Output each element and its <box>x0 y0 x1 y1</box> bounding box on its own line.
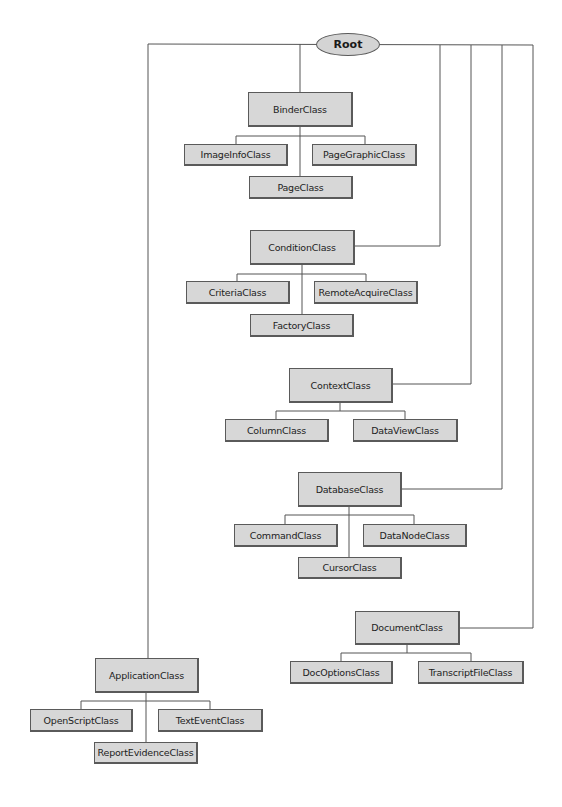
node-textevent-class: TextEventClass <box>158 709 263 732</box>
node-database-class: DatabaseClass <box>298 472 402 507</box>
node-condition-class: ConditionClass <box>250 230 355 265</box>
node-command-class: CommandClass <box>234 524 338 547</box>
node-openscript-class: OpenScriptClass <box>30 709 133 732</box>
node-datanode-class: DataNodeClass <box>363 524 467 547</box>
class-hierarchy-diagram: Root BinderClass ImageInfoClass PageGrap… <box>0 0 562 807</box>
node-page-class: PageClass <box>249 176 353 199</box>
node-binder-class: BinderClass <box>248 92 353 127</box>
node-transcriptfile-class: TranscriptFileClass <box>418 661 524 684</box>
node-remoteacquire-class: RemoteAcquireClass <box>314 281 418 304</box>
node-docoptions-class: DocOptionsClass <box>290 661 393 684</box>
node-application-class: ApplicationClass <box>95 658 199 693</box>
node-factory-class: FactoryClass <box>250 314 354 337</box>
node-dataview-class: DataViewClass <box>353 419 458 442</box>
root-node: Root <box>316 33 380 56</box>
node-imageinfo-class: ImageInfoClass <box>184 144 288 166</box>
node-reportevidence-class: ReportEvidenceClass <box>94 742 198 764</box>
node-cursor-class: CursorClass <box>298 557 402 579</box>
node-pagegraphic-class: PageGraphicClass <box>312 144 417 166</box>
node-document-class: DocumentClass <box>355 611 460 645</box>
node-column-class: ColumnClass <box>225 419 329 442</box>
node-criteria-class: CriteriaClass <box>186 281 290 304</box>
node-context-class: ContextClass <box>289 368 393 403</box>
